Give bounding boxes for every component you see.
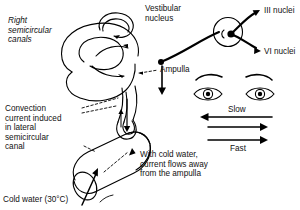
label-slow: Slow — [228, 105, 262, 115]
label-with-cold-water: With cold water, current flows away from… — [140, 150, 240, 179]
arrow-right-icon — [208, 136, 268, 144]
diagram-canvas: Right semicircular canals Vestibular nuc… — [0, 0, 300, 210]
label-iii-nuclei: III nuclei — [264, 6, 300, 16]
eye-icon — [246, 88, 274, 100]
label-vi-nuclei: VI nuclei — [264, 47, 300, 57]
eyebrow-icon — [196, 75, 222, 80]
eye-pair-icon — [194, 75, 274, 100]
label-fast: Fast — [230, 144, 264, 154]
convection-leader-lines — [82, 98, 118, 152]
eyebrow-icon — [246, 75, 272, 80]
label-ampulla: Ampulla — [160, 65, 205, 75]
label-convection-current: Convection current induced in lateral se… — [5, 104, 85, 152]
label-right-semicircular-canals: Right semicircular canals — [8, 16, 82, 45]
label-vestibular-nucleus: Vestibular nucleus — [145, 4, 205, 23]
eye-icon — [194, 88, 222, 100]
cold-water-leader-line — [100, 195, 113, 202]
vestibular-nerve-path — [158, 32, 219, 65]
arrow-right-icon — [208, 123, 268, 131]
label-cold-water: Cold water (30°C) — [3, 195, 93, 205]
nerve-to-iii-nuclei — [231, 10, 260, 34]
